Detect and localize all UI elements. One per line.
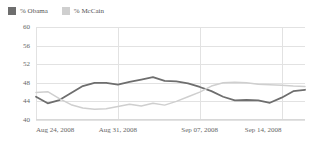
y-tick-label-48: 48 — [0, 80, 30, 87]
x-tick-label-2: Sep 07, 2008 — [181, 126, 218, 134]
y-tick-label-44: 44 — [0, 98, 30, 105]
y-tick-label-52: 52 — [0, 61, 30, 68]
y-tick-label-60: 60 — [0, 24, 30, 31]
y-tick-label-40: 40 — [0, 117, 30, 124]
poll-trend-chart: % Obama % McCain 605652484440 Aug 24, 20… — [0, 0, 320, 146]
y-tick-label-56: 56 — [0, 43, 30, 50]
x-axis-labels: Aug 24, 2008Aug 31, 2008Sep 07, 2008Sep … — [0, 126, 320, 138]
x-tick-label-1: Aug 31, 2008 — [99, 126, 137, 134]
y-axis-labels: 605652484440 — [0, 0, 320, 146]
x-tick-label-3: Sep 14, 2008 — [245, 126, 282, 134]
x-tick-label-0: Aug 24, 2008 — [36, 126, 74, 134]
